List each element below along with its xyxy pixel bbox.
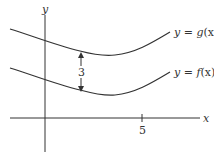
gap-label: 3 (78, 66, 85, 79)
curve-f-label-arg: (x) (201, 66, 214, 79)
diagram-canvas: y x 5 3 y = g(x) y = f(x) (0, 0, 214, 159)
curve-f-label-prefix: y = (173, 66, 196, 79)
curve-f-label: y = f(x) (173, 66, 214, 79)
curve-f (10, 68, 170, 95)
curve-g-label: y = g(x) (173, 26, 214, 39)
x-axis-label: x (203, 112, 210, 125)
curve-g-label-func: g (196, 26, 203, 39)
curve-g-label-prefix: y = (173, 26, 196, 39)
curve-g-label-arg: (x) (203, 26, 214, 39)
x-tick-label-5: 5 (139, 124, 146, 137)
curve-g (10, 29, 170, 55)
y-axis-label: y (41, 3, 49, 16)
graph-svg: y x 5 3 y = g(x) y = f(x) (0, 0, 214, 159)
